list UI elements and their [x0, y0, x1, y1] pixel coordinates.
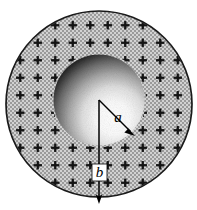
radius-b-label: b [96, 164, 104, 180]
radius-a-label: a [114, 109, 122, 125]
charged-sphere-diagram: b a [0, 0, 197, 210]
